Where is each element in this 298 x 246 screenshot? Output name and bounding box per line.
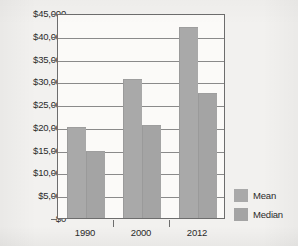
- legend-swatch-mean-icon: [234, 189, 248, 202]
- bar-median-2012: [198, 93, 217, 218]
- bar-median-2000: [142, 125, 161, 218]
- bar-mean-2000: [123, 79, 142, 218]
- legend-item-mean: Mean: [234, 186, 298, 205]
- y-axis-tick: [51, 219, 57, 220]
- chart-legend: Mean Median: [234, 186, 298, 224]
- legend-label-median: Median: [253, 210, 283, 220]
- bar-mean-1990: [67, 127, 86, 218]
- bar-chart: $45,000 $40,000 $35,000 $30,000 $25,000 …: [0, 0, 298, 246]
- x-axis-label: 2000: [111, 228, 171, 238]
- x-axis-label: 1990: [55, 228, 115, 238]
- plot-area: [57, 14, 225, 219]
- x-axis-tick: [169, 220, 170, 227]
- legend-item-median: Median: [234, 205, 298, 224]
- gridline: [58, 38, 224, 39]
- legend-label-mean: Mean: [253, 191, 276, 201]
- legend-swatch-median-icon: [234, 208, 248, 221]
- gridline: [58, 61, 224, 62]
- bar-median-1990: [86, 151, 105, 218]
- x-axis-label: 2012: [167, 228, 227, 238]
- x-axis-tick: [113, 220, 114, 227]
- bar-mean-2012: [179, 27, 198, 218]
